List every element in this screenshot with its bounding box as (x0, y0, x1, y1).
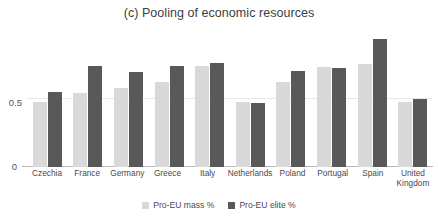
bar-group (392, 28, 433, 167)
bar-elite[interactable] (373, 39, 387, 167)
bar-group (271, 28, 312, 167)
bar-mass[interactable] (317, 67, 331, 167)
bar-mass[interactable] (276, 82, 290, 167)
bar-group (311, 28, 352, 167)
bar-elite[interactable] (88, 66, 102, 167)
bar-elite[interactable] (332, 68, 346, 167)
bar-group (108, 28, 149, 167)
bar-group (189, 28, 230, 167)
bar-mass[interactable] (33, 102, 47, 167)
x-axis-tick-label: United Kingdom (393, 169, 433, 188)
chart-title: (c) Pooling of economic resources (0, 6, 438, 21)
y-axis-tick-0.5: 0.5 (9, 98, 22, 107)
x-axis-tick-label: Czechia (27, 169, 67, 188)
legend-item[interactable]: Pro-EU mass % (142, 201, 214, 210)
bar-mass[interactable] (155, 82, 169, 167)
bar-mass[interactable] (236, 102, 250, 167)
bar-elite[interactable] (413, 99, 427, 167)
bar-chart: (c) Pooling of economic resources 0.5 0 … (0, 0, 438, 221)
bar-elite[interactable] (129, 72, 143, 167)
y-axis-tick-0: 0 (12, 162, 17, 171)
x-axis-tick-label: Italy (188, 169, 228, 188)
bar-elite[interactable] (170, 66, 184, 167)
bar-mass[interactable] (73, 93, 87, 167)
legend-label: Pro-EU mass % (153, 201, 214, 210)
bar-mass[interactable] (195, 66, 209, 167)
x-axis-tick-label: Greece (147, 169, 187, 188)
x-axis-tick-label: Netherlands (228, 169, 273, 188)
legend-item[interactable]: Pro-EU elite % (228, 201, 295, 210)
x-axis-labels: CzechiaFranceGermanyGreeceItalyNetherlan… (27, 169, 433, 188)
x-axis-tick-label: Poland (272, 169, 312, 188)
bar-mass[interactable] (114, 88, 128, 167)
bar-elite[interactable] (291, 71, 305, 167)
bars-layer (27, 28, 433, 167)
bar-group (352, 28, 393, 167)
chart-legend: Pro-EU mass %Pro-EU elite % (0, 201, 438, 210)
bar-elite[interactable] (251, 103, 265, 167)
x-axis-tick-label: Spain (353, 169, 393, 188)
plot-area: 0.5 0 (27, 28, 433, 167)
x-axis-tick-label: Portugal (313, 169, 353, 188)
legend-swatch-icon (142, 202, 149, 209)
x-axis-tick-label: France (67, 169, 107, 188)
legend-swatch-icon (228, 202, 235, 209)
bar-group (230, 28, 271, 167)
bar-group (149, 28, 190, 167)
bar-group (27, 28, 68, 167)
bar-mass[interactable] (358, 64, 372, 167)
bar-group (68, 28, 109, 167)
legend-label: Pro-EU elite % (239, 201, 295, 210)
bar-elite[interactable] (210, 63, 224, 167)
x-axis-tick-label: Germany (107, 169, 147, 188)
bar-mass[interactable] (398, 102, 412, 167)
bar-elite[interactable] (48, 92, 62, 167)
